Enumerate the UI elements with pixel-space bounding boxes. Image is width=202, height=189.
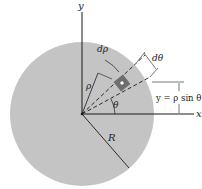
d-theta-ext-1: [137, 52, 145, 62]
y-axis-label: y: [77, 0, 84, 11]
x-axis-label: x: [196, 108, 202, 119]
d-rho-label: dρ: [97, 44, 109, 54]
theta-label: θ: [113, 100, 119, 110]
d-theta-label: dθ: [152, 53, 164, 63]
disk-diagram: y x dρ dθ ρ θ R y = ρ sin θ: [0, 0, 202, 189]
rho-label: ρ: [85, 81, 92, 91]
y-relation-label: y = ρ sin θ: [155, 93, 201, 103]
radius-label: R: [107, 132, 116, 143]
d-theta-ext-2: [150, 68, 158, 77]
origin-point: [81, 113, 84, 116]
